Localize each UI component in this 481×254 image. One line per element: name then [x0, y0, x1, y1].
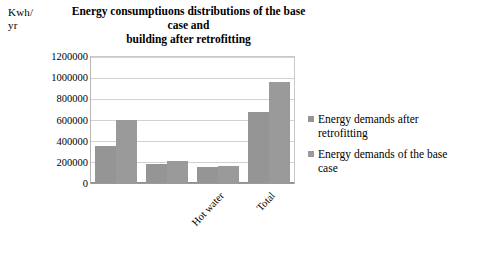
y-axis-tick-label: 0 — [2, 178, 88, 189]
y-axis-tick-label: 200000 — [2, 156, 88, 167]
plot-area-wrapper — [90, 56, 295, 184]
x-axis-category-label: Hot water — [190, 190, 227, 229]
y-axis-tick-labels: 020000040000060000080000010000001200000 — [0, 56, 88, 184]
legend-swatch-icon — [308, 151, 314, 157]
x-axis-label-slot — [91, 184, 141, 252]
bar-group — [193, 57, 244, 183]
y-axis-unit-line-1: Kwh/ — [8, 6, 64, 19]
bar — [95, 146, 116, 183]
x-axis-category-labels: Hot waterTotal — [90, 184, 295, 252]
y-axis-unit-line-2: yr — [8, 19, 64, 32]
bar-group — [142, 57, 193, 183]
chart-title-line-1: Energy consumptiuons distributions of th… — [66, 4, 311, 32]
x-axis-label-slot: Total — [244, 184, 294, 252]
legend-label: Energy demands after retrofitting — [318, 112, 468, 140]
y-axis-tick-label: 1200000 — [2, 51, 88, 62]
y-axis-tick-label: 1000000 — [2, 72, 88, 83]
chart-title: Energy consumptiuons distributions of th… — [66, 4, 311, 46]
chart-legend: Energy demands after retrofittingEnergy … — [308, 112, 476, 182]
bar — [167, 161, 188, 183]
y-axis-unit-label: Kwh/ yr — [8, 6, 64, 32]
x-axis-label-slot: Hot water — [193, 184, 243, 252]
legend-item[interactable]: Energy demands of the base case — [308, 147, 476, 175]
bar-group — [243, 57, 294, 183]
legend-label: Energy demands of the base case — [318, 147, 468, 175]
bar — [248, 112, 269, 183]
bar-group — [91, 57, 142, 183]
bar — [218, 166, 239, 183]
y-axis-tick-label: 800000 — [2, 93, 88, 104]
bar — [197, 167, 218, 183]
y-axis-tick-label: 600000 — [2, 114, 88, 125]
x-axis-label-slot — [142, 184, 192, 252]
bar — [269, 82, 290, 183]
legend-item[interactable]: Energy demands after retrofitting — [308, 112, 476, 140]
chart-title-line-2: building after retrofitting — [66, 32, 311, 46]
x-axis-category-label: Total — [255, 190, 278, 214]
bar-chart: Kwh/ yr Energy consumptiuons distributio… — [0, 0, 481, 254]
y-axis-tick-label: 400000 — [2, 135, 88, 146]
bar — [116, 120, 137, 183]
legend-swatch-icon — [308, 116, 314, 122]
bars-layer — [91, 57, 294, 183]
bar — [146, 164, 167, 183]
